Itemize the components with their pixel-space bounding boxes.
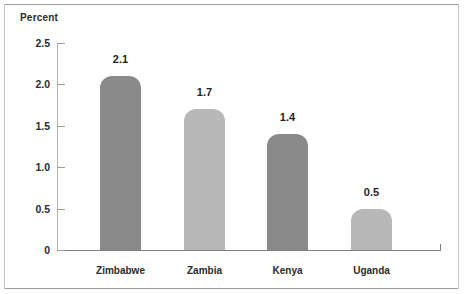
- category-label: Kenya: [239, 266, 336, 276]
- bar-chart-figure: Percent 2.52.01.51.00.50 2.11.71.40.5 Zi…: [0, 0, 467, 294]
- bar: [267, 134, 308, 250]
- category-label: Zimbabwe: [72, 266, 169, 276]
- bar-value-label: 1.7: [174, 87, 235, 98]
- bar-value-label: 0.5: [341, 187, 402, 198]
- bar-value-label: 1.4: [257, 112, 318, 123]
- category-label: Uganda: [323, 266, 420, 276]
- bar: [100, 76, 141, 250]
- frame-bottom-rule: [4, 288, 459, 289]
- y-axis-tick-label-wrap: 0: [6, 250, 50, 251]
- y-axis-tick: [57, 250, 65, 251]
- bars-layer: [0, 0, 467, 250]
- bar-value-label: 2.1: [90, 54, 151, 65]
- x-axis-line: [57, 250, 441, 251]
- bar: [184, 109, 225, 250]
- bar: [351, 209, 392, 250]
